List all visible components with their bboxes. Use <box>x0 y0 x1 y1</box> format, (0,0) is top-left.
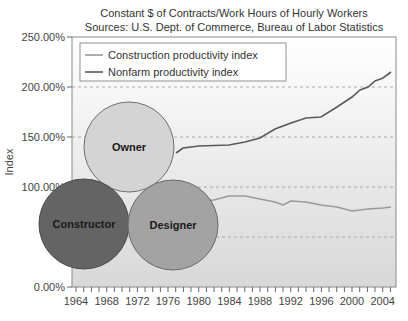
chart-canvas: 250.00% 200.00% 150.00% 100.00% 50 0.00%… <box>0 0 408 321</box>
x-tick-1976: 1976 <box>156 295 180 307</box>
x-tick-1996: 1996 <box>309 295 333 307</box>
x-tick-1968: 1968 <box>94 295 118 307</box>
x-tick-2004: 2004 <box>370 295 394 307</box>
legend-label-nonfarm: Nonfarm productivity index <box>108 66 239 78</box>
x-tick-1964: 1964 <box>64 295 88 307</box>
legend: Construction productivity index Nonfarm … <box>80 43 286 81</box>
designer-label: Designer <box>149 219 197 231</box>
x-tick-1992: 1992 <box>278 295 302 307</box>
y-tick-0: 0.00% <box>34 281 65 293</box>
y-tick-250: 250.00% <box>22 31 66 43</box>
y-axis-title: Index <box>3 148 15 175</box>
x-ticks <box>76 287 390 292</box>
y-tick-150: 150.00% <box>22 131 66 143</box>
owner-label: Owner <box>112 141 147 153</box>
x-tick-1988: 1988 <box>248 295 272 307</box>
x-tick-1980: 1980 <box>186 295 210 307</box>
y-tick-200: 200.00% <box>22 81 66 93</box>
constructor-label: Constructor <box>53 218 117 230</box>
x-tick-labels: 1964 1968 1972 1976 1980 1984 1988 1992 … <box>64 295 395 307</box>
x-tick-1984: 1984 <box>217 295 241 307</box>
x-tick-2000: 2000 <box>340 295 364 307</box>
legend-label-construction: Construction productivity index <box>108 49 258 61</box>
x-tick-1972: 1972 <box>125 295 149 307</box>
